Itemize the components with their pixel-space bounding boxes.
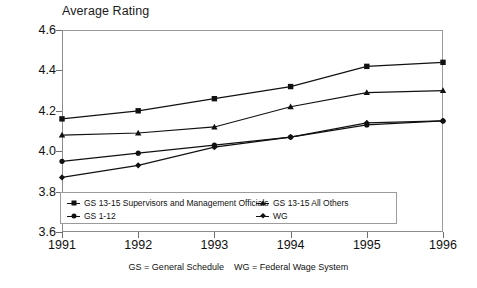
legend-label: GS 13-15 All Others xyxy=(273,198,349,208)
chart-legend: GS 13-15 Supervisors and Management Offi… xyxy=(60,192,397,224)
series-line xyxy=(62,121,443,178)
circle-marker-icon xyxy=(67,212,80,221)
data-point xyxy=(364,64,369,69)
legend-item-gs-13-15-all-others[interactable]: GS 13-15 All Others xyxy=(256,198,349,208)
square-marker-icon xyxy=(67,199,80,208)
legend-label: GS 1-12 xyxy=(84,211,116,221)
legend-item-gs-13-15-supervisors[interactable]: GS 13-15 Supervisors and Management Offi… xyxy=(67,198,269,208)
legend-item-gs-1-12[interactable]: GS 1-12 xyxy=(67,211,116,221)
data-point xyxy=(288,84,293,89)
data-point xyxy=(440,118,446,124)
series-gs-13-15-supervisors-and-management-officials xyxy=(59,60,445,122)
triangle-marker-icon xyxy=(256,199,269,208)
series-line xyxy=(62,121,443,161)
series-gs-13-15-all-others xyxy=(59,87,446,137)
data-point xyxy=(59,174,65,180)
data-point xyxy=(59,116,64,121)
data-point xyxy=(136,108,141,113)
legend-item-wg[interactable]: WG xyxy=(256,211,288,221)
series-layer xyxy=(0,0,477,288)
legend-label: GS 13-15 Supervisors and Management Offi… xyxy=(84,198,269,208)
data-point xyxy=(135,162,141,168)
data-point xyxy=(59,159,64,164)
data-point xyxy=(288,134,294,140)
data-point xyxy=(440,60,445,65)
series-wg xyxy=(59,118,446,181)
series-gs-1-12 xyxy=(59,118,445,164)
data-point xyxy=(136,151,141,156)
chart-container: Average Rating 4.6 4.4 4.2 4.0 3.8 3.6 1… xyxy=(0,0,477,288)
series-line xyxy=(62,62,443,119)
data-point xyxy=(212,96,217,101)
diamond-marker-icon xyxy=(256,212,269,221)
chart-footnote: GS = General Schedule WG = Federal Wage … xyxy=(0,262,477,272)
legend-label: WG xyxy=(273,211,288,221)
